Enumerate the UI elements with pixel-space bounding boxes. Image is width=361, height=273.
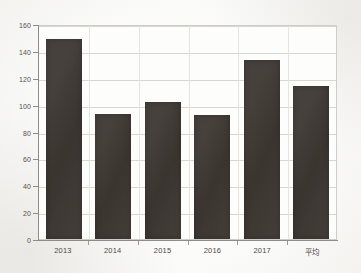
x-tick-mark — [188, 241, 189, 245]
y-tick-label: 140 — [1, 48, 31, 55]
y-tick-mark — [33, 133, 38, 134]
y-tick-label: 80 — [1, 129, 31, 136]
x-tick-label: 2014 — [88, 246, 138, 255]
x-axis-tick-labels: 20132014201520162017平均 — [38, 246, 337, 264]
x-tick-label: 2015 — [138, 246, 188, 255]
bar — [95, 114, 131, 239]
y-axis-tick-labels: 020406080100120140160 — [0, 0, 31, 273]
y-axis-line — [38, 25, 39, 241]
bar — [194, 115, 230, 239]
y-tick-label: 120 — [1, 75, 31, 82]
x-tick-label: 2013 — [38, 246, 88, 255]
y-tick-label: 100 — [1, 102, 31, 109]
bar — [145, 102, 181, 239]
bar-chart-figure: 020406080100120140160 201320142015201620… — [0, 0, 361, 273]
y-tick-label: 160 — [1, 22, 31, 29]
x-tick-label: 平均 — [287, 246, 337, 257]
x-tick-label: 2016 — [187, 246, 237, 255]
x-tick-mark — [138, 241, 139, 245]
y-tick-mark — [33, 213, 38, 214]
bar — [46, 39, 82, 239]
y-tick-mark — [33, 240, 38, 241]
y-tick-label: 20 — [1, 210, 31, 217]
bar — [293, 86, 329, 239]
plot-area — [38, 25, 337, 240]
y-tick-mark — [33, 79, 38, 80]
y-tick-mark — [33, 52, 38, 53]
y-tick-label: 40 — [1, 183, 31, 190]
bar-series — [39, 26, 336, 239]
x-tick-mark — [287, 241, 288, 245]
y-tick-mark — [33, 25, 38, 26]
y-tick-label: 0 — [1, 237, 31, 244]
bar — [244, 60, 280, 239]
x-tick-label: 2017 — [237, 246, 287, 255]
y-tick-mark — [33, 186, 38, 187]
y-tick-label: 60 — [1, 156, 31, 163]
y-tick-mark — [33, 106, 38, 107]
x-tick-mark — [88, 241, 89, 245]
y-tick-mark — [33, 159, 38, 160]
x-tick-mark — [237, 241, 238, 245]
